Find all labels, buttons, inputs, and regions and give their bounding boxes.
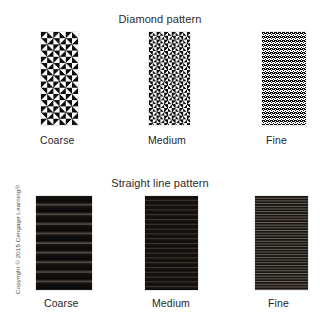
swatch-label-diamond-fine: Fine: [266, 134, 287, 146]
swatch-label-straight-line-fine: Fine: [268, 297, 289, 309]
swatch-label-diamond-coarse: Coarse: [40, 134, 74, 146]
swatch-label-straight-line-coarse: Coarse: [44, 297, 78, 309]
section-title-straight-line: Straight line pattern: [0, 177, 320, 189]
knurling-pattern-figure: Diamond pattern Coarse Medium Fine Strai…: [0, 0, 320, 327]
swatch-label-diamond-medium: Medium: [148, 134, 186, 146]
section-title-diamond: Diamond pattern: [0, 13, 320, 25]
swatch-straight-line-medium: [145, 196, 198, 290]
swatch-diamond-fine: [262, 32, 306, 125]
swatch-straight-line-fine: [255, 196, 308, 290]
copyright-notice: Copyright © 2015 Cengage Learning®: [14, 179, 21, 301]
swatch-label-straight-line-medium: Medium: [152, 297, 190, 309]
swatch-diamond-medium: [149, 32, 190, 125]
swatch-diamond-coarse: [41, 32, 78, 125]
swatch-straight-line-coarse: [36, 196, 92, 290]
